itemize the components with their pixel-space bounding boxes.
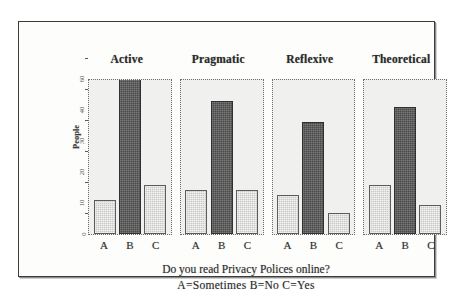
x-tick-group-pragmatic: ABC	[180, 237, 264, 254]
panel-title-row: Active Pragmatic Reflexive Theoretical	[81, 50, 447, 68]
bar-pragmatic-a	[185, 190, 207, 234]
bar-pragmatic-b	[211, 101, 233, 234]
bar-active-b	[119, 79, 141, 234]
panel-plot-area	[89, 80, 171, 234]
bar-theoretical-b	[394, 107, 416, 234]
x-tick-group-active: ABC	[88, 237, 172, 254]
y-tick-label: 20	[63, 166, 85, 178]
x-tick-group-theoretical: ABC	[363, 237, 447, 254]
x-tick-group-reflexive: ABC	[272, 237, 356, 254]
x-tick-label-a: A	[276, 237, 298, 254]
figure-frame: Active Pragmatic Reflexive Theoretical P…	[18, 21, 435, 277]
chart-figure: Active Pragmatic Reflexive Theoretical P…	[0, 0, 457, 300]
panel-title-reflexive: Reflexive	[264, 50, 356, 68]
bar-theoretical-c	[419, 205, 441, 234]
panel-title-active: Active	[81, 50, 173, 68]
panel-plot-area	[273, 80, 355, 234]
bar-pragmatic-c	[236, 190, 258, 234]
y-tick-label: 30	[63, 135, 85, 147]
panel-active	[88, 79, 172, 235]
panel-plot-area	[181, 80, 263, 234]
y-tick-mark	[85, 89, 88, 90]
bar-reflexive-a	[277, 195, 299, 234]
bar-reflexive-b	[302, 122, 324, 234]
y-axis-ticks: 01020304060	[63, 72, 85, 242]
panel-pragmatic	[180, 79, 264, 235]
x-tick-label-a: A	[93, 237, 115, 254]
plot-panels	[88, 79, 447, 235]
bar-active-c	[144, 185, 166, 234]
bar-reflexive-c	[328, 213, 350, 234]
x-tick-label-c: C	[145, 237, 167, 254]
x-tick-label-c: C	[420, 237, 442, 254]
panel-reflexive	[272, 79, 356, 235]
panel-theoretical	[363, 79, 447, 235]
panel-title-pragmatic: Pragmatic	[173, 50, 265, 68]
y-tick-mark	[85, 182, 88, 183]
caption-block: Do you read Privacy Polices online? A=So…	[59, 261, 433, 293]
x-tick-label-b: B	[119, 237, 141, 254]
x-tick-label-c: C	[328, 237, 350, 254]
y-tick-mark	[85, 120, 88, 121]
x-tick-label-b: B	[211, 237, 233, 254]
caption-question: Do you read Privacy Polices online?	[59, 261, 433, 277]
x-tick-label-c: C	[237, 237, 259, 254]
bar-theoretical-a	[369, 185, 391, 234]
bar-active-a	[94, 200, 116, 234]
x-tick-label-b: B	[302, 237, 324, 254]
y-tick-label: 40	[63, 104, 85, 116]
y-tick-mark	[85, 213, 88, 214]
y-tick-mark	[85, 151, 88, 152]
x-tick-label-a: A	[368, 237, 390, 254]
panel-title-theoretical: Theoretical	[356, 50, 448, 68]
x-axis-ticks: ABCABCABCABC	[88, 237, 447, 254]
x-tick-label-b: B	[394, 237, 416, 254]
panel-plot-area	[364, 80, 446, 234]
y-tick-label: 10	[63, 197, 85, 209]
caption-legend: A=Sometimes B=No C=Yes	[59, 277, 433, 293]
y-tick-label: 0	[63, 228, 85, 240]
y-tick-label: 60	[63, 73, 85, 85]
x-tick-label-a: A	[185, 237, 207, 254]
y-tick-mark	[85, 58, 88, 59]
